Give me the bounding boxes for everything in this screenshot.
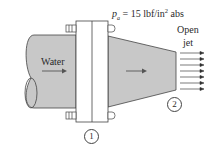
section-2-marker: 2 xyxy=(167,97,182,112)
jet-arrows xyxy=(180,52,204,91)
ambient-pressure-label: pa = 15 lbf/in2 abs xyxy=(112,8,184,21)
section-1-marker: 1 xyxy=(84,129,99,144)
open-label: Open xyxy=(177,25,199,35)
water-label: Water xyxy=(41,57,65,67)
nozzle-diagram xyxy=(0,0,215,153)
jet-label: jet xyxy=(183,38,193,48)
